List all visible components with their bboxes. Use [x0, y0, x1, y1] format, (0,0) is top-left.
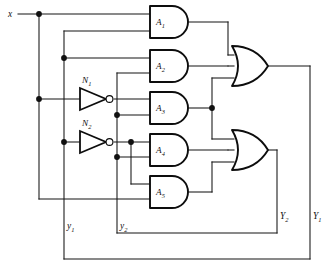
n2-label: N2: [81, 118, 92, 130]
logic-circuit-diagram: A1 A2 A3 A4 A5: [0, 0, 326, 277]
n2-body: [80, 131, 106, 153]
and-gate-a1[interactable]: A1: [150, 6, 228, 38]
or2-body: [232, 130, 268, 170]
wire-group-feedback-risers: [277, 66, 310, 259]
label-y1: y1: [66, 221, 74, 233]
and-gate-a5[interactable]: A5: [150, 176, 212, 208]
inverter-n2[interactable]: N2: [80, 118, 113, 153]
junction-a3-output: [209, 105, 215, 111]
or1-body: [232, 46, 268, 86]
n1-body: [80, 88, 106, 110]
n2-bubble-icon: [106, 139, 113, 146]
and-gate-a3[interactable]: A3: [150, 92, 212, 124]
n1-label: N1: [81, 75, 91, 87]
junction-x-top: [36, 11, 42, 17]
label-input-x: x: [7, 9, 13, 19]
junction-y2-a3: [114, 112, 120, 118]
inverter-n1[interactable]: N1: [80, 75, 113, 110]
junction-y1-n2: [61, 139, 67, 145]
junction-x-n1: [36, 96, 42, 102]
label-Y2: Y2: [280, 211, 289, 223]
junction-n2-branch: [128, 139, 134, 145]
junction-dots: [36, 11, 215, 160]
and-gate-a2[interactable]: A2: [150, 50, 228, 82]
junction-y2-a4: [114, 154, 120, 160]
or-gate-1[interactable]: [212, 22, 310, 108]
label-Y1: Y1: [313, 211, 321, 223]
circuit-canvas: A1 A2 A3 A4 A5: [0, 0, 326, 277]
junction-y1-a2: [61, 55, 67, 61]
n1-bubble-icon: [106, 96, 113, 103]
label-y2: y2: [119, 221, 128, 233]
